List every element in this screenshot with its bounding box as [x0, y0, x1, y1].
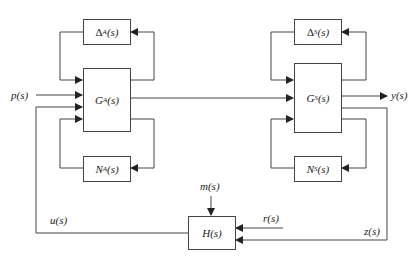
g-a-block: GA(s) — [83, 68, 131, 132]
m-signal-label: m(s) — [200, 181, 220, 192]
n-s-block: NS(s) — [294, 156, 342, 182]
ga-to-delta-a-line — [130, 32, 154, 80]
gs-to-delta-s-line — [341, 32, 366, 80]
g-s-suffix: (s) — [318, 92, 330, 104]
n-a-to-ga-line — [60, 119, 83, 168]
ga-to-n-a-line — [130, 119, 154, 168]
delta-a-to-ga-line — [60, 32, 83, 80]
g-s-block: GS(s) — [294, 63, 342, 133]
p-signal-label: p(s) — [11, 90, 28, 101]
n-a-suffix: (s) — [107, 163, 119, 175]
h-label: H(s) — [202, 227, 222, 239]
n-s-suffix: (s) — [318, 163, 330, 175]
delta-s-suffix: (s) — [317, 26, 329, 38]
h-block: H(s) — [188, 216, 236, 250]
r-signal-label: r(s) — [263, 213, 279, 224]
n-a-block: NA(s) — [83, 156, 131, 182]
g-a-suffix: (s) — [107, 94, 119, 106]
n-s-to-gs-line — [271, 119, 294, 168]
n-s-prefix: N — [307, 163, 314, 175]
delta-s-to-gs-line — [271, 32, 294, 80]
block-diagram: ΔA(s) GA(s) NA(s) ΔS(s) GS(s) NS(s) H(s)… — [0, 0, 417, 265]
delta-a-prefix: Δ — [96, 26, 103, 38]
n-a-prefix: N — [95, 163, 102, 175]
gs-to-n-s-line — [341, 119, 366, 168]
delta-s-block: ΔS(s) — [294, 19, 342, 45]
z-signal-label: z(s) — [364, 226, 380, 237]
delta-a-block: ΔA(s) — [83, 19, 131, 45]
u-signal-label: u(s) — [50, 215, 67, 226]
delta-s-prefix: Δ — [307, 26, 314, 38]
delta-a-suffix: (s) — [107, 26, 119, 38]
y-signal-label: y(s) — [391, 90, 408, 101]
g-s-prefix: G — [306, 92, 314, 104]
g-a-prefix: G — [95, 94, 103, 106]
